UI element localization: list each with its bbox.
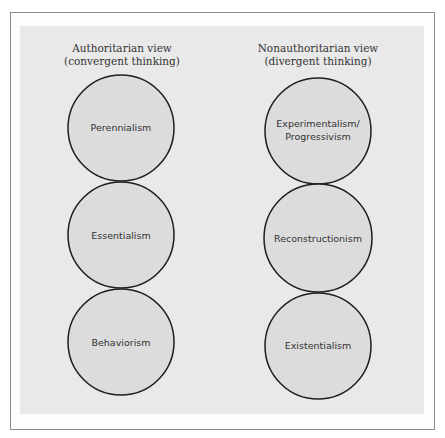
circle-label: Essentialism: [91, 230, 150, 241]
circle-essentialism: Essentialism: [68, 182, 174, 288]
circle-label: Existentialism: [285, 340, 351, 351]
authoritarian-column: Perennialism Essentialism Behaviorism: [68, 75, 174, 395]
circle-label: Behaviorism: [91, 337, 150, 348]
circle-experimentalism-progressivism: Experimentalism/ Progressivism: [265, 78, 371, 184]
nonauthoritarian-column: Experimentalism/ Progressivism Reconstru…: [264, 78, 372, 399]
circle-label: Reconstructionism: [274, 233, 362, 244]
circle-label-line2: Progressivism: [285, 131, 351, 142]
circle-reconstructionism: Reconstructionism: [264, 184, 372, 292]
circle-label: Perennialism: [91, 122, 152, 133]
circle-perennialism: Perennialism: [68, 75, 174, 181]
philosophy-circles: Perennialism Essentialism Behaviorism Ex…: [0, 0, 445, 438]
circle-existentialism: Existentialism: [265, 293, 371, 399]
circle-behaviorism: Behaviorism: [68, 289, 174, 395]
circle-label-line1: Experimentalism/: [276, 118, 360, 129]
